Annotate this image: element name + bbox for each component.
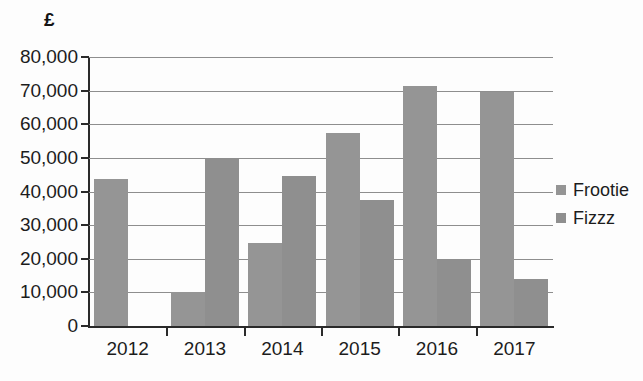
legend-label-frootie: Frootie [573,180,629,201]
y-axis-tick-labels: 010,00020,00030,00040,00050,00060,00070,… [0,0,78,381]
x-axis-tick-label: 2014 [261,338,303,360]
plot-area [89,57,553,326]
y-axis-tick-label: 0 [2,315,78,337]
bar-fizzz-2017[interactable] [514,279,548,326]
bar-chart: £ 010,00020,00030,00040,00050,00060,0007… [0,0,643,381]
bar-frootie-2014[interactable] [248,243,282,326]
legend-swatch-fizzz [556,213,566,223]
legend-label-fizzz: Fizzz [573,208,615,229]
x-axis-tick-label: 2015 [339,338,381,360]
bar-frootie-2012[interactable] [94,179,128,326]
legend-item-fizzz[interactable]: Fizzz [556,204,642,232]
x-axis-tick [166,328,168,336]
legend-item-frootie[interactable]: Frootie [556,176,642,204]
y-axis-tick [81,90,89,92]
x-axis-tick [398,328,400,336]
gridline [89,57,553,58]
y-axis-tick [81,258,89,260]
bar-fizzz-2013[interactable] [205,159,239,326]
bar-frootie-2013[interactable] [171,292,205,326]
y-axis-tick-label: 70,000 [2,80,78,102]
x-axis-tick [244,328,246,336]
y-axis-tick-label: 50,000 [2,147,78,169]
y-axis-tick [81,56,89,58]
bar-fizzz-2016[interactable] [437,260,471,326]
bar-frootie-2016[interactable] [403,86,437,326]
bar-fizzz-2015[interactable] [360,200,394,326]
y-axis-tick-label: 10,000 [2,281,78,303]
y-axis-tick-label: 30,000 [2,214,78,236]
y-axis-tick [81,224,89,226]
bar-fizzz-2014[interactable] [282,176,316,326]
x-axis-tick [476,328,478,336]
y-axis-tick [81,325,89,327]
x-axis-tick-label: 2017 [493,338,535,360]
bar-frootie-2015[interactable] [326,133,360,326]
y-axis-tick [81,157,89,159]
y-axis-tick [81,191,89,193]
x-axis-tick-label: 2016 [416,338,458,360]
x-axis-tick-label: 2012 [107,338,149,360]
x-axis-tick-label: 2013 [184,338,226,360]
y-axis-tick-label: 40,000 [2,181,78,203]
y-axis-tick-label: 20,000 [2,248,78,270]
y-axis-tick [81,291,89,293]
bar-frootie-2017[interactable] [480,92,514,326]
chart-legend: Frootie Fizzz [556,176,642,232]
legend-swatch-frootie [556,185,566,195]
y-axis-tick-label: 80,000 [2,46,78,68]
x-axis-tick [321,328,323,336]
y-axis-tick [81,123,89,125]
y-axis-tick-label: 60,000 [2,113,78,135]
